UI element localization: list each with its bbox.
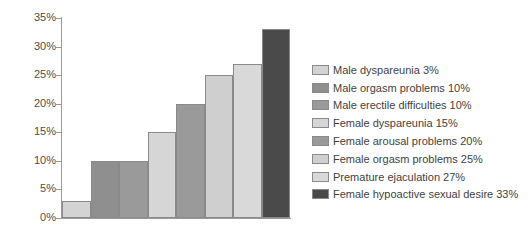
legend-swatch — [312, 154, 329, 164]
legend-item: Female arousal problems 20% — [312, 132, 518, 150]
legend-item-label: Male erectile difficulties 10% — [333, 99, 472, 111]
bar — [233, 64, 262, 218]
y-axis-tick-label: 5% — [8, 183, 56, 194]
sexual-dysfunction-prevalence-bar-chart: 35%30%25%20%15%10%5%0% Male dyspareunia … — [0, 0, 531, 232]
legend-item: Premature ejaculation 27% — [312, 168, 518, 186]
legend-swatch — [312, 65, 329, 75]
y-axis-tick-label: 20% — [8, 98, 56, 109]
legend-item: Female orgasm problems 25% — [312, 150, 518, 168]
legend-swatch — [312, 172, 329, 182]
legend-item: Female dyspareunia 15% — [312, 114, 518, 132]
legend-item: Male orgasm problems 10% — [312, 79, 518, 97]
bar — [91, 161, 120, 218]
legend-item-label: Male orgasm problems 10% — [333, 82, 470, 94]
legend-swatch — [312, 83, 329, 93]
legend-item: Female hypoactive sexual desire 33% — [312, 186, 518, 204]
legend-item-label: Female orgasm problems 25% — [333, 153, 483, 165]
y-axis-tick-label: 30% — [8, 41, 56, 52]
legend-swatch — [312, 100, 329, 110]
legend-item-label: Premature ejaculation 27% — [333, 171, 465, 183]
bar — [176, 104, 205, 218]
legend-item-label: Male dyspareunia 3% — [333, 64, 439, 76]
legend-swatch — [312, 136, 329, 146]
y-axis-tick-label: 25% — [8, 69, 56, 80]
legend-swatch — [312, 189, 329, 199]
bar — [148, 132, 177, 218]
bar — [119, 161, 148, 218]
bar — [262, 29, 291, 218]
plot-area — [62, 18, 290, 218]
y-axis-tick-label: 0% — [8, 212, 56, 223]
legend-item-label: Female dyspareunia 15% — [333, 117, 458, 129]
y-axis-tick-label: 15% — [8, 126, 56, 137]
legend-item: Male erectile difficulties 10% — [312, 97, 518, 115]
legend-item-label: Female arousal problems 20% — [333, 135, 482, 147]
bar — [62, 201, 91, 218]
bar — [205, 75, 234, 218]
legend-item: Male dyspareunia 3% — [312, 61, 518, 79]
y-axis-tick-label: 10% — [8, 155, 56, 166]
legend-item-label: Female hypoactive sexual desire 33% — [333, 188, 518, 200]
chart-legend: Male dyspareunia 3%Male orgasm problems … — [312, 61, 518, 203]
x-axis-line — [61, 218, 291, 219]
y-axis-tick-label: 35% — [8, 12, 56, 23]
legend-swatch — [312, 118, 329, 128]
